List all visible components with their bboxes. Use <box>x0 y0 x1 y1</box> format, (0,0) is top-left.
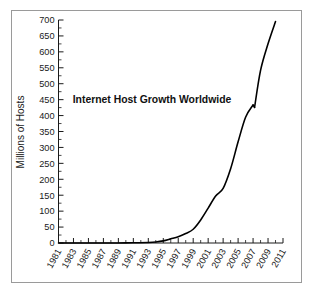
y-tick-label: 150 <box>39 191 54 201</box>
data-series-line <box>59 105 254 243</box>
y-axis-tick-labels: 0501001502002503003504004505005506006507… <box>39 15 54 248</box>
x-tick-label: 2011 <box>270 247 288 269</box>
y-tick-label: 0 <box>49 238 54 248</box>
data-series-group <box>59 22 276 243</box>
x-tick-label: 2009 <box>254 247 273 270</box>
y-tick-label: 700 <box>39 15 54 25</box>
y-tick-label: 300 <box>39 143 54 153</box>
y-tick-label: 350 <box>39 127 54 137</box>
data-series-line <box>255 22 276 108</box>
y-axis-ticks <box>59 20 64 243</box>
line-chart: 0501001502002503003504004505005506006507… <box>0 0 314 300</box>
y-tick-label: 400 <box>39 111 54 121</box>
y-tick-label: 550 <box>39 63 54 73</box>
y-tick-label: 50 <box>44 222 54 232</box>
chart-title: Internet Host Growth Worldwide <box>73 94 232 105</box>
figure-container: 0501001502002503003504004505005506006507… <box>0 0 314 300</box>
y-tick-label: 500 <box>39 79 54 89</box>
y-tick-label: 200 <box>39 175 54 185</box>
y-axis-title: Millions of Hosts <box>15 96 26 169</box>
y-tick-label: 450 <box>39 95 54 105</box>
y-tick-label: 600 <box>39 47 54 57</box>
y-tick-label: 100 <box>39 206 54 216</box>
x-axis-tick-labels: 1981198319851987198919911993199519971999… <box>45 247 288 270</box>
axes-group <box>59 20 284 243</box>
y-tick-label: 650 <box>39 31 54 41</box>
y-tick-label: 250 <box>39 159 54 169</box>
